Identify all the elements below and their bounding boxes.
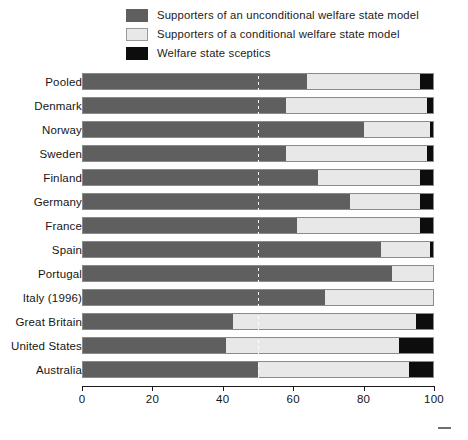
bar-row-label: Germany: [34, 190, 82, 214]
x-axis-tick-label: 40: [216, 393, 229, 405]
bar-segment-sceptics: [427, 145, 434, 162]
bar-segment-conditional: [286, 97, 427, 114]
legend-label-sceptics: Welfare state sceptics: [157, 47, 271, 60]
stacked-bar: [82, 145, 434, 162]
stacked-bar: [82, 97, 434, 114]
bar-segment-unconditional: [82, 73, 307, 90]
bar-segment-unconditional: [82, 337, 226, 354]
bar-segment-unconditional: [82, 361, 258, 378]
legend-swatch-unconditional-icon: [126, 9, 148, 22]
stacked-bar: [82, 289, 434, 306]
x-axis-tick-label: 20: [146, 393, 159, 405]
bar-row-label: Italy (1996): [23, 286, 82, 310]
stacked-bar: [82, 337, 434, 354]
bar-row: Italy (1996): [0, 286, 468, 310]
stacked-bar: [82, 241, 434, 258]
stacked-bar: [82, 361, 434, 378]
bar-segment-sceptics: [430, 241, 434, 258]
bar-segment-sceptics: [416, 313, 434, 330]
bar-segment-unconditional: [82, 121, 364, 138]
corner-dash-mark: [438, 427, 451, 429]
bar-row-label: Norway: [42, 118, 82, 142]
bar-segment-unconditional: [82, 313, 233, 330]
x-axis-tick-label: 0: [79, 393, 86, 405]
bar-segment-sceptics: [420, 217, 434, 234]
x-axis-tick-label: 80: [357, 393, 370, 405]
x-axis-tick: [82, 386, 83, 391]
bar-segment-conditional: [392, 265, 434, 282]
bar-segment-unconditional: [82, 145, 286, 162]
bar-segment-unconditional: [82, 169, 318, 186]
bar-row: Spain: [0, 238, 468, 262]
bar-segment-conditional: [297, 217, 420, 234]
bar-row-label: Denmark: [34, 94, 82, 118]
x-axis-tick: [434, 386, 435, 391]
legend-item-sceptics: Welfare state sceptics: [126, 44, 456, 63]
bar-row-label: Portugal: [38, 262, 82, 286]
bar-segment-conditional: [286, 145, 427, 162]
bar-rows-container: PooledDenmarkNorwaySwedenFinlandGermanyF…: [0, 70, 468, 382]
legend-item-conditional: Supporters of a conditional welfare stat…: [126, 25, 456, 44]
bar-segment-unconditional: [82, 265, 392, 282]
bar-segment-conditional: [226, 337, 398, 354]
legend-label-conditional: Supporters of a conditional welfare stat…: [157, 28, 400, 41]
bar-row: Germany: [0, 190, 468, 214]
bar-row-label: Finland: [43, 166, 82, 190]
stacked-bar: [82, 217, 434, 234]
bar-row: Norway: [0, 118, 468, 142]
stacked-bar: [82, 121, 434, 138]
x-axis-tick: [364, 386, 365, 391]
bar-row: Great Britain: [0, 310, 468, 334]
bar-row: Pooled: [0, 70, 468, 94]
bar-row: Sweden: [0, 142, 468, 166]
bar-row-label: Pooled: [45, 70, 82, 94]
bar-segment-unconditional: [82, 241, 381, 258]
bar-segment-conditional: [318, 169, 420, 186]
bar-segment-conditional: [381, 241, 430, 258]
stacked-bar: [82, 193, 434, 210]
stacked-bar: [82, 313, 434, 330]
bar-segment-sceptics: [399, 337, 434, 354]
bar-row: Finland: [0, 166, 468, 190]
x-axis-tick: [152, 386, 153, 391]
x-axis-tick-label: 60: [286, 393, 299, 405]
bar-row-label: Great Britain: [15, 310, 82, 334]
legend-swatch-conditional-icon: [126, 28, 148, 41]
chart-legend: Supporters of an unconditional welfare s…: [126, 6, 456, 63]
bar-row: Australia: [0, 358, 468, 382]
bar-row-label: United States: [11, 334, 82, 358]
stacked-bar: [82, 169, 434, 186]
bar-segment-sceptics: [430, 121, 434, 138]
bar-segment-unconditional: [82, 97, 286, 114]
bar-row: United States: [0, 334, 468, 358]
chart-plot-area: PooledDenmarkNorwaySwedenFinlandGermanyF…: [0, 70, 468, 440]
bar-segment-sceptics: [409, 361, 434, 378]
stacked-bar: [82, 73, 434, 90]
bar-segment-conditional: [350, 193, 420, 210]
bar-row-label: Sweden: [40, 142, 82, 166]
bar-segment-conditional: [307, 73, 420, 90]
bar-segment-unconditional: [82, 217, 297, 234]
bar-row: France: [0, 214, 468, 238]
legend-item-unconditional: Supporters of an unconditional welfare s…: [126, 6, 456, 25]
bar-segment-unconditional: [82, 289, 325, 306]
bar-segment-sceptics: [427, 97, 434, 114]
legend-swatch-sceptics-icon: [126, 47, 148, 60]
x-axis-tick: [223, 386, 224, 391]
bar-segment-conditional: [325, 289, 434, 306]
bar-row: Denmark: [0, 94, 468, 118]
bar-segment-sceptics: [420, 193, 434, 210]
bar-row-label: Australia: [36, 358, 82, 382]
bar-segment-unconditional: [82, 193, 350, 210]
x-axis-tick-label: 100: [424, 393, 444, 405]
stacked-bar: [82, 265, 434, 282]
bar-row-label: Spain: [52, 238, 82, 262]
bar-segment-sceptics: [420, 73, 434, 90]
x-axis-line: [82, 386, 434, 387]
x-axis-tick: [293, 386, 294, 391]
bar-segment-sceptics: [420, 169, 434, 186]
bar-segment-conditional: [258, 361, 409, 378]
bar-row: Portugal: [0, 262, 468, 286]
bar-row-label: France: [45, 214, 82, 238]
bar-segment-conditional: [364, 121, 431, 138]
